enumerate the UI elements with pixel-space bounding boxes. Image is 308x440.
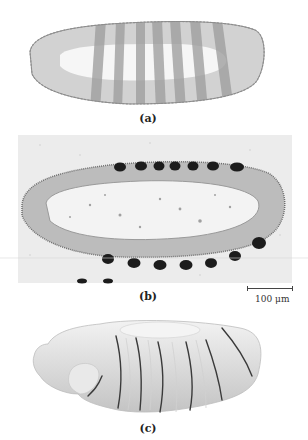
panel-c: (c) (0, 310, 308, 440)
panel-label-b: (b) (128, 290, 168, 303)
scale-bar-line (247, 288, 292, 289)
embryo-3d-rendering (0, 310, 308, 420)
panel-b: (b) 100 μm (0, 135, 308, 310)
embryo-stripe-drawing (0, 0, 308, 115)
scale-bar-tick-left (247, 286, 248, 291)
scale-bar-label: 100 μm (255, 294, 289, 304)
panel-a: (a) (0, 0, 308, 130)
embryo-micrograph (0, 135, 308, 285)
scale-bar-tick-right (292, 286, 293, 291)
panel-label-a: (a) (128, 112, 168, 125)
panel-label-c: (c) (128, 422, 168, 435)
